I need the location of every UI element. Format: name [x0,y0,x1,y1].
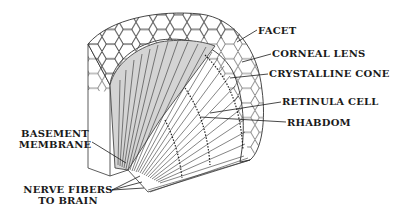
compound-eye-diagram: FACET CORNEAL LENS CRYSTALLINE CONE RETI… [0,0,407,218]
label-retinula-cell: RETINULA CELL [282,96,378,107]
label-nerve-fibers: NERVE FIBERS TO BRAIN [22,184,114,206]
label-nerve-line2: TO BRAIN [22,195,114,206]
label-basement-membrane: BASEMENT MEMBRANE [16,128,94,150]
label-crystalline-cone: CRYSTALLINE CONE [269,68,390,79]
label-rhabdom: RHABDOM [287,117,351,128]
label-nerve-line1: NERVE FIBERS [22,184,114,195]
label-basement-line1: BASEMENT [16,128,94,139]
label-corneal-lens: CORNEAL LENS [272,48,365,59]
label-basement-line2: MEMBRANE [16,139,94,150]
label-facet: FACET [258,25,296,36]
